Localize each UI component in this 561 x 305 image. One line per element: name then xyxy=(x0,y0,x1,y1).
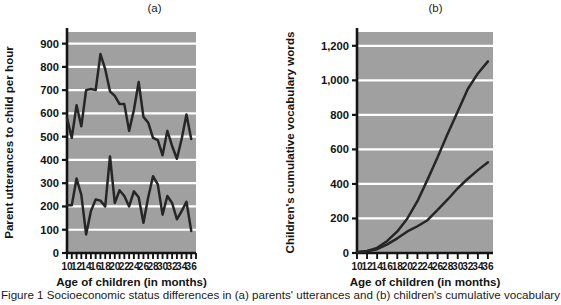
chart-b-svg: 02004006008001,0001,20010121416182022242… xyxy=(280,0,561,305)
chart-panel-a: (a) 010020030040050060070080090010121416… xyxy=(0,0,281,305)
y-tick-label: 300 xyxy=(40,177,59,189)
x-tick-label: 36 xyxy=(482,261,494,272)
y-tick-label: 600 xyxy=(40,107,59,119)
y-tick-label: 800 xyxy=(330,109,349,121)
figure-caption: Figure 1 Socioeconomic status difference… xyxy=(0,291,561,301)
y-axis-ticks: 02004006008001,0001,200 xyxy=(321,40,357,259)
x-axis-tick-labels: 1012141618202224262830323436 xyxy=(351,261,494,272)
y-tick-label: 1,000 xyxy=(321,74,349,86)
y-tick-label: 0 xyxy=(53,247,59,259)
y-tick-label: 200 xyxy=(40,200,59,212)
y-tick-label: 700 xyxy=(40,84,59,96)
figure-caption-strip: Figure 1 Socioeconomic status difference… xyxy=(0,291,561,305)
y-tick-label: 400 xyxy=(330,178,349,190)
plot-area-background xyxy=(357,32,493,253)
x-axis-title: Age of children (in months) xyxy=(56,275,207,288)
chart-panel-b: (b) 02004006008001,0001,2001012141618202… xyxy=(280,0,561,305)
x-axis-tick-labels: 1012141618202224262830323436 xyxy=(61,261,197,272)
y-axis-title: Parent utterances to child per hour xyxy=(2,46,15,239)
y-tick-label: 1,200 xyxy=(321,40,349,52)
y-tick-label: 600 xyxy=(330,143,349,155)
y-tick-label: 100 xyxy=(40,224,59,236)
y-tick-label: 400 xyxy=(40,154,59,166)
y-tick-label: 900 xyxy=(40,38,59,50)
y-axis-ticks: 0100200300400500600700800900 xyxy=(40,38,67,259)
x-axis-title: Age of children (in months) xyxy=(350,275,501,288)
figure-container: (a) 010020030040050060070080090010121416… xyxy=(0,0,561,305)
x-tick-label: 36 xyxy=(186,261,198,272)
y-tick-label: 500 xyxy=(40,131,59,143)
y-tick-label: 800 xyxy=(40,61,59,73)
y-axis-title: Children's cumulative vocabulary words xyxy=(283,32,296,254)
y-tick-label: 200 xyxy=(330,212,349,224)
y-tick-label: 0 xyxy=(343,247,349,259)
chart-a-svg: 0100200300400500600700800900101214161820… xyxy=(0,0,281,305)
